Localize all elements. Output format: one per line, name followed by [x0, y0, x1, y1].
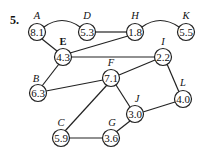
- svg-text:7.1: 7.1: [104, 72, 118, 84]
- node-B: B 6.3: [30, 73, 47, 102]
- svg-text:K: K: [181, 10, 190, 21]
- graph-diagram: 5. A 8.1 D 5.3 H 1.8 K 5.5 E: [0, 0, 207, 161]
- svg-text:5.3: 5.3: [80, 26, 94, 38]
- node-E: E 4.3: [55, 36, 72, 66]
- svg-text:5.9: 5.9: [54, 132, 68, 144]
- edge-B-F: [46, 80, 103, 91]
- svg-text:F: F: [107, 57, 115, 68]
- problem-number: 5.: [10, 13, 19, 27]
- edge-J-G: [116, 121, 130, 132]
- svg-text:1.8: 1.8: [128, 26, 142, 38]
- svg-text:2.2: 2.2: [156, 51, 170, 63]
- svg-text:C: C: [57, 117, 65, 128]
- svg-text:G: G: [108, 117, 116, 128]
- svg-text:I: I: [160, 36, 165, 47]
- node-L: L 4.0: [175, 77, 192, 108]
- node-A: A 8.1: [29, 10, 46, 41]
- edge-H-K: [142, 21, 179, 28]
- svg-text:D: D: [82, 10, 91, 21]
- svg-text:8.1: 8.1: [30, 26, 44, 38]
- svg-text:J: J: [135, 93, 141, 104]
- node-J: J 3.0: [127, 93, 144, 123]
- node-K: K 5.5: [178, 10, 195, 41]
- edge-E-B: [42, 64, 59, 86]
- node-H: H 1.8: [127, 10, 144, 41]
- svg-text:6.3: 6.3: [31, 87, 45, 99]
- node-G: G 3.6: [103, 117, 120, 147]
- svg-text:4.0: 4.0: [176, 93, 190, 105]
- edge-I-L: [167, 64, 179, 92]
- svg-text:3.6: 3.6: [104, 132, 118, 144]
- node-D: D 5.3: [79, 10, 96, 41]
- edge-F-C: [65, 85, 107, 131]
- svg-text:L: L: [179, 77, 186, 88]
- node-I: I 2.2: [155, 36, 172, 66]
- svg-text:E: E: [59, 36, 66, 47]
- edge-A-E: [42, 39, 57, 51]
- svg-text:4.3: 4.3: [56, 51, 70, 63]
- node-C: C 5.9: [53, 117, 70, 147]
- edge-F-I: [119, 60, 155, 75]
- svg-text:B: B: [33, 73, 40, 84]
- node-F: F 7.1: [103, 57, 120, 87]
- edge-H-E: [70, 36, 128, 53]
- svg-text:A: A: [33, 10, 41, 21]
- svg-text:H: H: [130, 10, 140, 21]
- svg-text:3.0: 3.0: [128, 108, 142, 120]
- svg-text:5.5: 5.5: [179, 26, 193, 38]
- edge-F-J: [116, 85, 130, 107]
- edge-L-J: [143, 102, 175, 112]
- edge-A-D: [44, 21, 80, 28]
